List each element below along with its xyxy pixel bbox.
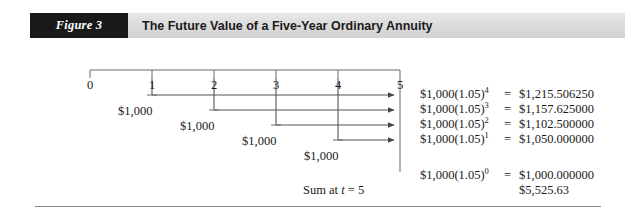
sum-label-prefix: Sum at	[303, 183, 341, 197]
timeline-ticks	[90, 70, 400, 78]
cash-flow-label-period-1: $1,000	[118, 104, 152, 119]
equation-expression-4: $1,000(1.05)1	[420, 132, 489, 147]
equation-equals-3: =	[504, 117, 511, 132]
equation-expression-3: $1,000(1.05)2	[420, 117, 489, 132]
equation-base-5: $1,000(1.05)	[420, 168, 485, 182]
figure-tag: Figure 3	[30, 13, 128, 38]
equation-value-2: $1,157.625000	[519, 102, 594, 117]
cash-flow-label-period-2: $1,000	[180, 119, 214, 134]
equation-value-3: $1,102.500000	[519, 117, 594, 132]
equation-value-5: $1,000.000000	[519, 168, 594, 183]
equation-exponent-5: 0	[485, 166, 489, 176]
equation-equals-2: =	[504, 102, 511, 117]
equation-base-1: $1,000(1.05)	[420, 87, 485, 101]
figure-title: The Future Value of a Five-Year Ordinary…	[142, 13, 433, 38]
equation-base-3: $1,000(1.05)	[420, 117, 485, 131]
equation-equals-4: =	[504, 132, 511, 147]
tick-label-5: 5	[390, 78, 410, 93]
equation-exponent-4: 1	[485, 130, 489, 140]
equation-exponent-3: 2	[485, 115, 489, 125]
tick-label-0: 0	[80, 78, 100, 93]
tick-label-2: 2	[204, 78, 224, 93]
equation-equals-1: =	[504, 87, 511, 102]
cash-flow-label-period-3: $1,000	[242, 134, 276, 149]
cash-flow-label-period-4: $1,000	[304, 149, 338, 164]
equation-base-2: $1,000(1.05)	[420, 102, 485, 116]
tick-label-3: 3	[266, 78, 286, 93]
total-future-value: $5,525.63	[519, 183, 569, 198]
figure-header-bar: Figure 3 The Future Value of a Five-Year…	[30, 13, 625, 38]
bottom-divider	[35, 206, 601, 207]
equation-expression-2: $1,000(1.05)3	[420, 102, 489, 117]
equation-equals-5: =	[504, 168, 511, 183]
sum-label-suffix: = 5	[345, 183, 365, 197]
equation-value-1: $1,215.506250	[519, 87, 594, 102]
equation-value-4: $1,050.000000	[519, 132, 594, 147]
equation-expression-5: $1,000(1.05)0	[420, 168, 489, 183]
tick-label-4: 4	[328, 78, 348, 93]
equation-exponent-2: 3	[485, 100, 489, 110]
equation-exponent-1: 4	[485, 85, 489, 95]
sum-at-t5-label: Sum at t = 5	[303, 183, 364, 198]
equation-expression-1: $1,000(1.05)4	[420, 87, 489, 102]
equation-base-4: $1,000(1.05)	[420, 132, 485, 146]
tick-label-1: 1	[142, 78, 162, 93]
